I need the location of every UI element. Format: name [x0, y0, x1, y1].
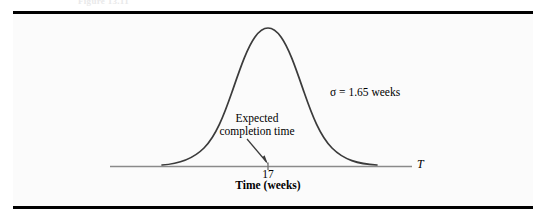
expected-completion-annotation: Expected completion time [212, 112, 302, 137]
sigma-label: σ = 1.65 weeks [330, 86, 400, 98]
x-axis-variable-label: T [417, 157, 424, 172]
bottom-rule [13, 206, 533, 209]
annotation-line-1: Expected [212, 112, 302, 125]
annotation-line-2: completion time [212, 125, 302, 138]
annotation-arrow-head [262, 155, 268, 164]
x-axis-caption: Time (weeks) [218, 179, 318, 191]
figure-container: Figure 13.11 σ = 1.65 weeks Expected com… [0, 0, 546, 220]
